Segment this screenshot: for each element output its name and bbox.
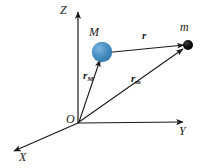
origin-label: O [66, 113, 75, 125]
axis-y-line [78, 122, 183, 123]
axis-y-label: Y [179, 125, 186, 137]
vector-r-m-subscript: m [135, 78, 140, 86]
axis-z-label: Z [60, 4, 67, 16]
vector-diagram [0, 0, 204, 168]
origin-point [77, 121, 79, 123]
body-M-sphere [92, 42, 112, 62]
vector-r-big-m-label: rM [83, 70, 94, 83]
vector-r-line [103, 45, 184, 53]
vector-r-m-label: rm [131, 73, 141, 86]
axis-x-label: X [19, 151, 26, 163]
body-M-label: M [89, 26, 99, 38]
axis-x-line [14, 123, 78, 151]
body-m-label: m [180, 21, 189, 33]
vector-r-big-m-subscript: M [87, 75, 93, 83]
body-m-point [183, 40, 193, 50]
figure-canvas: Z Y X O M m r rM rm [0, 0, 204, 168]
vector-r-symbol: r [142, 29, 146, 41]
vector-r-label: r [142, 30, 146, 41]
